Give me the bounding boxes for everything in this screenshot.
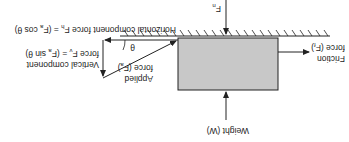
applied-label-line1: Applied [124, 74, 153, 84]
vertical-component-label-line2: force Fv = (Fa sin θ) [25, 48, 99, 59]
friction-label-line1: Friction [317, 54, 345, 64]
horizontal-component-label: Horizontal component force Fh = (Fa cos … [14, 24, 176, 35]
applied-label-line2: force (Fa) [117, 62, 153, 73]
theta-label: θ [130, 42, 135, 52]
friction-label-line2: force (Ff) [311, 42, 345, 53]
theta-arc [123, 40, 125, 50]
normal-force-label: Fn [212, 3, 221, 14]
block [178, 38, 278, 90]
weight-label: Weight (W) [206, 126, 249, 136]
force-diagram: Fn Friction force (Ff) Weight (W) Applie… [0, 0, 349, 142]
vertical-component-label-line1: Vertical component [26, 60, 99, 70]
